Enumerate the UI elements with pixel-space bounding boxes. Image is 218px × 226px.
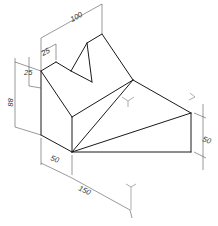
dim-top-width: 100 bbox=[69, 10, 85, 24]
isometric-drawing: 100 25 25 88 50 150 50 bbox=[0, 0, 218, 226]
dim-notch-depth: 25 bbox=[23, 68, 33, 77]
object-edges bbox=[41, 34, 191, 152]
drawing-svg: 100 25 25 88 50 150 50 bbox=[0, 0, 218, 226]
dim-height: 88 bbox=[6, 98, 15, 107]
dimension-labels: 100 25 25 88 50 150 50 bbox=[6, 10, 213, 198]
dim-front-depth: 50 bbox=[49, 153, 61, 165]
dimension-lines bbox=[15, 4, 206, 218]
dim-length: 150 bbox=[77, 184, 93, 198]
